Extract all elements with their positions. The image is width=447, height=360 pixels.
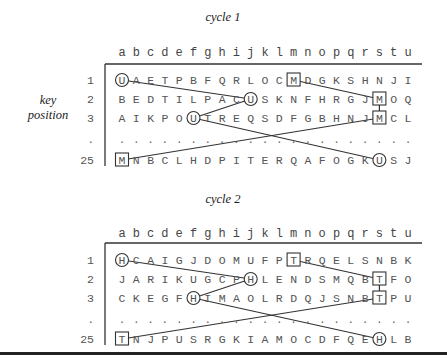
grid-letter: H [190, 292, 197, 305]
column-header: n [304, 227, 311, 241]
grid-letter: D [147, 93, 154, 106]
column-header: j [247, 227, 254, 241]
grid-letter: O [405, 273, 412, 286]
ellipsis-dot: . [347, 314, 354, 326]
column-header: m [290, 46, 297, 60]
column-header-row: abcdefghijklmnopqrstu [118, 46, 411, 60]
grid-letter: I [161, 254, 168, 267]
grid-letter: K [362, 154, 369, 167]
ellipsis-dot: . [319, 314, 326, 326]
grid-letter: O [290, 333, 297, 346]
column-header: s [376, 46, 383, 60]
grid-letter: G [204, 273, 211, 286]
column-header: p [333, 227, 340, 241]
column-header: b [133, 227, 140, 241]
grid-letter: N [133, 333, 140, 346]
column-header-row: abcdefghijklmnopqrstu [118, 227, 411, 241]
grid-letter: D [304, 273, 311, 286]
ellipsis-dot: . [362, 134, 369, 146]
column-header: t [390, 227, 397, 241]
cycle-diagram: key position cycle 1 abcdefghijklmnopqrs… [0, 0, 447, 360]
grid-letter: E [262, 154, 269, 167]
ellipsis-dot: . [333, 314, 340, 326]
grid-letter: A [233, 292, 240, 305]
grid-letter: M [376, 112, 383, 125]
grid-letter: Q [219, 74, 226, 87]
grid-letter: C [219, 273, 226, 286]
column-header: d [161, 46, 168, 60]
grid-letter: U [176, 333, 183, 346]
column-header: a [118, 227, 125, 241]
grid-letter: K [276, 93, 283, 106]
grid-letter: F [304, 93, 311, 106]
column-header: g [204, 46, 211, 60]
cycle-title: cycle 1 [205, 10, 240, 24]
column-header: f [190, 227, 197, 241]
grid-letter: U [190, 273, 197, 286]
ellipsis-dot: . [233, 314, 240, 326]
ellipsis-dot: . [276, 314, 283, 326]
column-header: i [233, 227, 240, 241]
ellipsis-dot: . [147, 134, 154, 146]
grid-letter: I [204, 292, 211, 305]
grid-letter: L [247, 74, 254, 87]
ellipsis-dot: . [190, 134, 197, 146]
grid-letter: E [147, 74, 154, 87]
grid-letter: S [262, 112, 269, 125]
grid-letter: P [233, 273, 240, 286]
grid-letter: O [219, 254, 226, 267]
grid-letter: O [176, 112, 183, 125]
grid-letter: M [219, 292, 226, 305]
grid-letter: H [119, 254, 126, 267]
grid-letter: N [290, 273, 297, 286]
ellipsis-dot: . [305, 134, 312, 146]
row-label: 25 [80, 333, 94, 346]
grid-letter: D [304, 74, 311, 87]
grid-letter: G [161, 292, 168, 305]
column-header: o [319, 46, 326, 60]
ellipsis-dot: . [190, 314, 197, 326]
column-header: i [233, 46, 240, 60]
link-line [122, 260, 251, 279]
grid-letter: E [147, 292, 154, 305]
column-header: o [319, 227, 326, 241]
grid-letter: H [190, 154, 197, 167]
grid-letter: B [362, 292, 369, 305]
grid-letter: T [376, 292, 383, 305]
column-header: e [176, 227, 183, 241]
grid-letter: B [390, 254, 397, 267]
grid-letter: K [147, 112, 154, 125]
grid-letter: P [161, 112, 168, 125]
grid-letter: R [276, 154, 283, 167]
column-header: c [147, 46, 154, 60]
grid-letter: H [376, 333, 383, 346]
column-header: a [118, 46, 125, 60]
grid-letter: S [390, 154, 397, 167]
row-label: 2 [87, 93, 94, 106]
ellipsis-dot: . [290, 314, 297, 326]
grid-letter: H [362, 74, 369, 87]
grid-letter: E [333, 254, 340, 267]
grid-letter: N [376, 74, 383, 87]
cycle-title: cycle 2 [205, 192, 240, 206]
grid-letter: D [204, 254, 211, 267]
grid-letter: F [333, 333, 340, 346]
grid-letter: I [161, 273, 168, 286]
grid-letter: A [219, 93, 226, 106]
grid-letter: G [347, 93, 354, 106]
column-header: r [361, 46, 368, 60]
grid-letter: D [204, 154, 211, 167]
grid-letter: S [262, 93, 269, 106]
grid-letter: K [233, 333, 240, 346]
grid-letter: T [161, 93, 168, 106]
grid-letter: I [405, 74, 412, 87]
grid-letter: F [319, 154, 326, 167]
grid-letter: F [176, 292, 183, 305]
column-header: p [333, 46, 340, 60]
row-labels: 123.25 [80, 74, 94, 167]
grid-letter: E [233, 112, 240, 125]
ellipsis-dot: . [176, 314, 183, 326]
grid-letter: M [376, 93, 383, 106]
grid-letter: J [119, 273, 126, 286]
ellipsis-dot: . [390, 314, 397, 326]
